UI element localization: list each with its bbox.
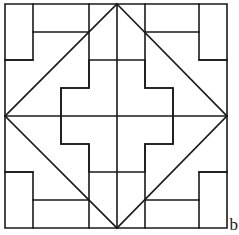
figure-canvas: b <box>0 0 239 235</box>
page-edge-letter-artifact: b <box>230 216 239 233</box>
quilt-block-figure <box>0 0 239 235</box>
